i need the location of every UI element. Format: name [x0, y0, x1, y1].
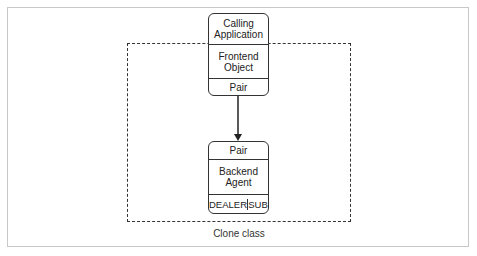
backend-agent-section: Backend Agent — [209, 159, 268, 194]
sub-socket: SUB — [247, 199, 268, 210]
backend-pair-section: Pair — [209, 142, 268, 159]
pair-connector-arrow — [0, 0, 477, 256]
dealer-socket: DEALER — [209, 199, 247, 210]
backend-node: Pair Backend Agent DEALER SUB — [208, 141, 269, 214]
socket-row: DEALER SUB — [209, 194, 268, 213]
